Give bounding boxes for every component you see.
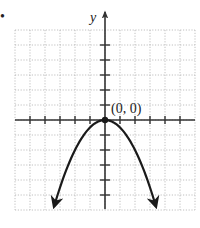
vertex-point xyxy=(102,117,108,123)
parabola-plot: • y (0, 0) xyxy=(0,0,200,228)
problem-bullet: • xyxy=(0,9,5,24)
y-axis-label: y xyxy=(88,10,97,25)
vertex-label: (0, 0) xyxy=(111,101,142,117)
graph-figure: • y (0, 0) xyxy=(0,0,200,228)
